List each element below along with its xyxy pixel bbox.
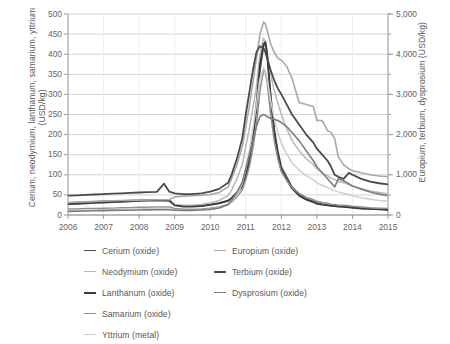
chart-legend: Cerium (oxide)Neodymium (oxide)Lanthanum…	[84, 240, 384, 332]
legend-item-label: Terbium (oxide)	[232, 267, 292, 277]
series-line	[68, 46, 388, 196]
series-line	[68, 42, 388, 210]
legend-item[interactable]: Terbium (oxide)	[214, 261, 364, 282]
legend-color-swatch	[84, 313, 96, 314]
legend-color-swatch	[84, 334, 96, 335]
legend-item-label: Yttrium (metal)	[102, 330, 159, 340]
legend-item-label: Cerium (oxide)	[102, 246, 159, 256]
series-line	[68, 70, 388, 209]
legend-item[interactable]: Samarium (oxide)	[84, 303, 224, 324]
legend-column-right: Europium (oxide)Terbium (oxide)Dysprosiu…	[214, 240, 364, 303]
series-line	[68, 42, 388, 210]
legend-color-swatch	[214, 292, 226, 293]
series-line	[68, 68, 388, 210]
legend-item[interactable]: Cerium (oxide)	[84, 240, 224, 261]
legend-color-swatch	[214, 271, 226, 273]
legend-item-label: Europium (oxide)	[232, 246, 298, 256]
legend-color-swatch	[84, 250, 96, 251]
legend-column-left: Cerium (oxide)Neodymium (oxide)Lanthanum…	[84, 240, 224, 344]
legend-item[interactable]: Yttrium (metal)	[84, 324, 224, 344]
legend-color-swatch	[84, 292, 96, 294]
legend-color-swatch	[214, 250, 226, 251]
legend-item-label: Lanthanum (oxide)	[102, 288, 175, 298]
legend-item[interactable]: Europium (oxide)	[214, 240, 364, 261]
series-line	[68, 22, 388, 203]
legend-item-label: Samarium (oxide)	[102, 309, 171, 319]
legend-item[interactable]: Lanthanum (oxide)	[84, 282, 224, 303]
legend-item-label: Dysprosium (oxide)	[232, 288, 307, 298]
legend-item[interactable]: Dysprosium (oxide)	[214, 282, 364, 303]
legend-item[interactable]: Neodymium (oxide)	[84, 261, 224, 282]
series-line	[68, 115, 388, 212]
legend-color-swatch	[84, 271, 96, 272]
legend-item-label: Neodymium (oxide)	[102, 267, 177, 277]
